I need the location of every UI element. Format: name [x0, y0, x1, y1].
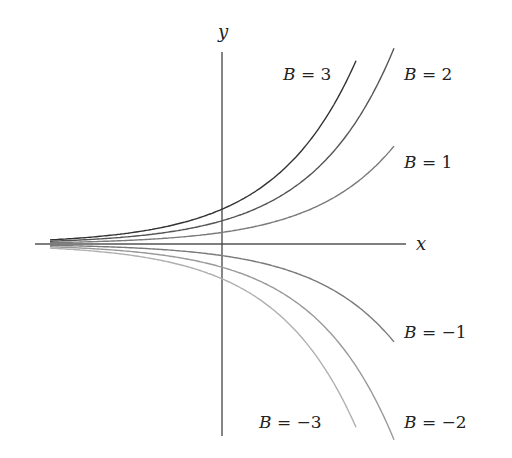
curve-b-neg3: [50, 248, 356, 427]
y-axis-label: y: [217, 21, 229, 42]
curve-label-b-1: B = 1: [403, 152, 452, 172]
curve-label-b-3: B = 3: [282, 64, 331, 84]
curve-b-3: [50, 61, 356, 240]
curve-label-b-neg2: B = −2: [403, 412, 467, 432]
curve-label-b-2: B = 2: [403, 64, 452, 84]
curve-label-b-neg3: B = −3: [258, 412, 322, 432]
x-axis-label: x: [416, 233, 426, 254]
exponential-family-chart: x y B = 3B = 2B = 1B = −1B = −2B = −3: [0, 0, 512, 458]
curve-label-b-neg1: B = −1: [403, 322, 467, 342]
